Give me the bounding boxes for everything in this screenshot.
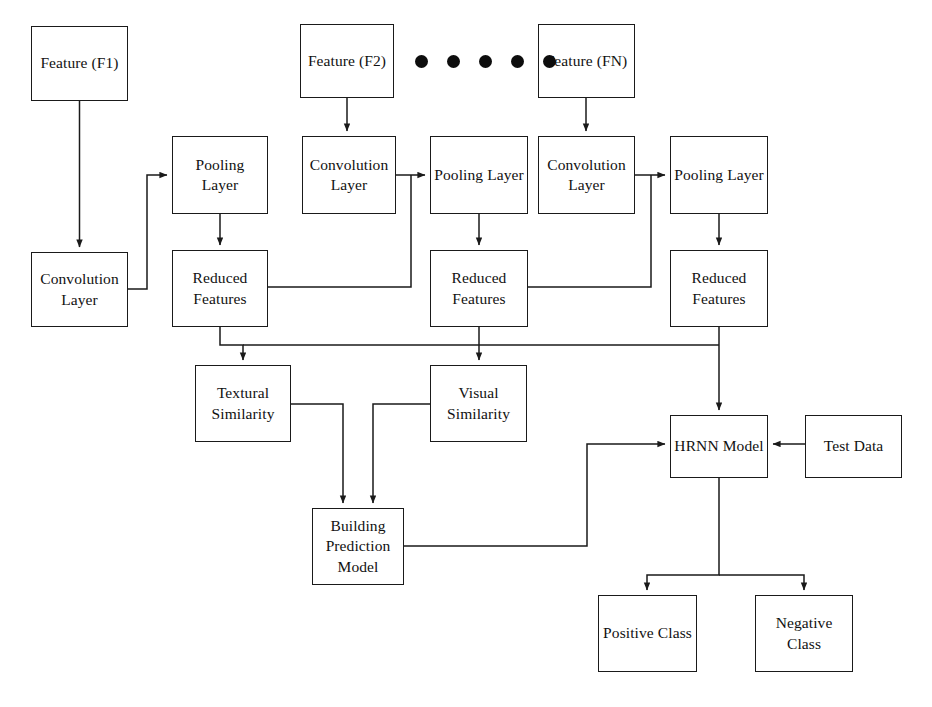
node-label-reduced_features_1: Reduced Features	[193, 268, 248, 309]
node-label-convolution_2: Convolution Layer	[310, 155, 389, 196]
ellipsis-dot	[511, 55, 524, 68]
node-label-feature_fn: Feature (FN)	[546, 51, 628, 71]
node-feature_f1[interactable]: Feature (F1)	[31, 26, 128, 101]
node-label-textural_similarity: Textural Similarity	[212, 383, 275, 424]
node-label-reduced_features_3: Reduced Features	[692, 268, 747, 309]
node-label-convolution_3: Convolution Layer	[547, 155, 626, 196]
node-convolution_1[interactable]: Convolution Layer	[31, 252, 128, 327]
node-label-hrnn_model: HRNN Model	[674, 436, 763, 456]
node-test_data[interactable]: Test Data	[805, 415, 902, 478]
flowchart-canvas: Feature (F1)Feature (F2)Feature (FN)Pool…	[0, 0, 932, 707]
node-label-test_data: Test Data	[824, 436, 884, 456]
feature-sequence-ellipsis	[415, 55, 556, 68]
ellipsis-dot	[415, 55, 428, 68]
ellipsis-dot	[479, 55, 492, 68]
edge-bpm-to-hrnn	[404, 444, 665, 546]
node-label-positive_class: Positive Class	[603, 623, 692, 643]
node-hrnn_model[interactable]: HRNN Model	[670, 415, 768, 478]
node-label-reduced_features_2: Reduced Features	[452, 268, 507, 309]
node-building_prediction[interactable]: Building Prediction Model	[312, 508, 404, 585]
node-label-pooling_layer_2: Pooling Layer	[434, 165, 524, 185]
node-label-convolution_1: Convolution Layer	[40, 269, 119, 310]
node-reduced_features_1[interactable]: Reduced Features	[172, 250, 268, 327]
node-label-feature_f2: Feature (F2)	[308, 51, 386, 71]
node-reduced_features_3[interactable]: Reduced Features	[670, 250, 768, 327]
edge-conv1-to-pool1	[128, 175, 167, 289]
node-visual_similarity[interactable]: Visual Similarity	[430, 365, 527, 442]
ellipsis-dot	[447, 55, 460, 68]
node-convolution_2[interactable]: Convolution Layer	[302, 136, 396, 214]
node-pooling_layer_1[interactable]: Pooling Layer	[172, 136, 268, 214]
edge-visual-to-bpm	[373, 404, 430, 503]
node-label-feature_f1: Feature (F1)	[40, 53, 118, 73]
edge-rf1-to-textural	[220, 327, 243, 360]
node-pooling_layer_3[interactable]: Pooling Layer	[670, 136, 768, 214]
node-label-visual_similarity: Visual Similarity	[447, 383, 510, 424]
node-textural_similarity[interactable]: Textural Similarity	[195, 365, 291, 442]
edge-textural-to-bpm	[291, 404, 343, 503]
node-feature_f2[interactable]: Feature (F2)	[300, 24, 394, 98]
ellipsis-dot	[543, 55, 556, 68]
node-label-building_prediction: Building Prediction Model	[326, 516, 391, 577]
node-convolution_3[interactable]: Convolution Layer	[538, 136, 635, 214]
node-reduced_features_2[interactable]: Reduced Features	[430, 250, 528, 327]
node-positive_class[interactable]: Positive Class	[598, 595, 697, 672]
node-label-negative_class: Negative Class	[776, 613, 833, 654]
node-label-pooling_layer_3: Pooling Layer	[674, 165, 764, 185]
node-label-pooling_layer_1: Pooling Layer	[176, 155, 264, 196]
edge-hrnn-to-negative	[719, 575, 804, 590]
node-pooling_layer_2[interactable]: Pooling Layer	[430, 136, 528, 214]
node-negative_class[interactable]: Negative Class	[755, 595, 853, 672]
edge-hrnn-split	[647, 478, 719, 590]
